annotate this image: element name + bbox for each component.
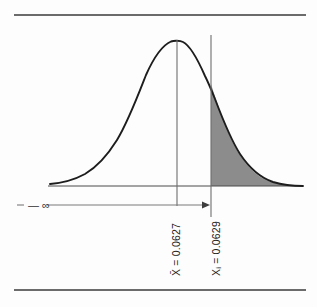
arrow-head-icon xyxy=(202,202,210,209)
figure-root: — ∞ X̄ = 0.0627 Xᵢ = 0.0629 xyxy=(0,0,317,307)
sample-value-label: Xᵢ = 0.0629 xyxy=(210,221,222,276)
lower-bound-label: — ∞ xyxy=(28,199,50,211)
mean-value-label: X̄ = 0.0627 xyxy=(170,223,182,276)
distribution-figure: — ∞ X̄ = 0.0627 Xᵢ = 0.0629 xyxy=(0,0,317,307)
upper-tail-shaded-region xyxy=(211,84,303,186)
